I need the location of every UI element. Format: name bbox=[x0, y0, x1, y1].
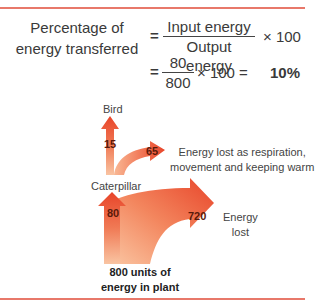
plant-label: 800 units of energy in plant bbox=[96, 265, 184, 295]
caterpillar-value: 80 bbox=[107, 207, 119, 219]
bird-label: Bird bbox=[103, 103, 123, 115]
bird-value: 15 bbox=[104, 138, 116, 150]
plant-loss-label: Energy lost bbox=[223, 210, 258, 240]
caterpillar-loss-value: 65 bbox=[146, 145, 158, 157]
caterpillar-loss-label: Energy lost as respiration, movement and… bbox=[170, 145, 314, 175]
bottom-divider bbox=[0, 298, 305, 300]
plant-loss-value: 720 bbox=[188, 210, 206, 222]
caterpillar-label: Caterpillar bbox=[91, 180, 141, 192]
